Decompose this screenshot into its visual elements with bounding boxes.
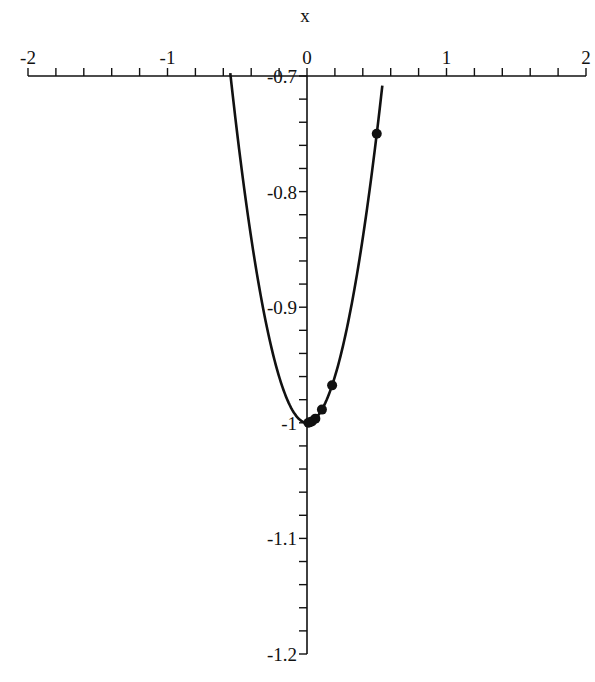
y-tick-label: -1.2 [267,644,297,665]
x-axis-label: x [300,5,310,26]
y-tick-label: -0.7 [267,66,297,87]
x-tick-label: -1 [160,47,176,68]
y-tick-label: -0.8 [267,182,297,203]
x-tick-label: -2 [20,47,36,68]
x-tick-label: 1 [442,47,452,68]
data-point-marker [303,418,313,428]
x-tick-label: 0 [302,47,312,68]
data-point-marker [327,380,337,390]
data-point-marker [372,129,382,139]
chart-plot: -2-1012 -0.7-0.8-0.9-1-1.1-1.2 x [0,0,595,682]
x-axis: -2-1012 [20,47,591,76]
y-tick-label: -0.9 [267,297,297,318]
data-point-marker [317,405,327,415]
y-axis: -0.7-0.8-0.9-1-1.1-1.2 [267,66,307,665]
x-tick-label: 2 [581,47,591,68]
y-tick-label: -1.1 [267,528,297,549]
y-tick-label: -1 [281,413,297,434]
